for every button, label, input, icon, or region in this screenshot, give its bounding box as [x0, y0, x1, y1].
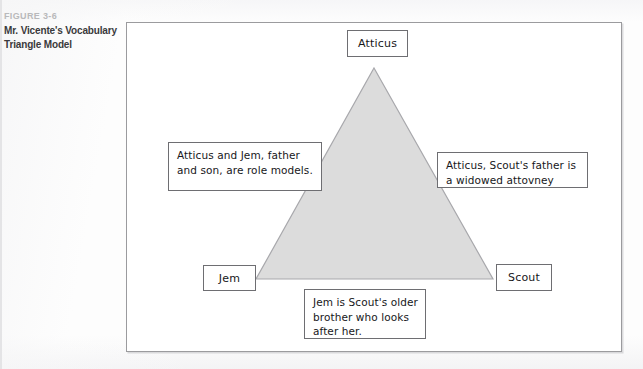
node-label-jem: Jem: [219, 272, 240, 285]
figure-frame: Atticus Jem Scout Atticus and Jem, fathe…: [126, 22, 622, 352]
node-label-atticus: Atticus: [358, 37, 397, 50]
note-box-right[interactable]: Atticus, Scout's father is a widowed att…: [437, 152, 588, 188]
node-box-jem[interactable]: Jem: [203, 265, 256, 291]
node-label-scout: Scout: [508, 271, 540, 284]
node-box-scout[interactable]: Scout: [496, 264, 552, 291]
figure-caption: FIGURE 3-6 Mr. Vicente's Vocabulary Tria…: [4, 10, 122, 51]
figure-page: FIGURE 3-6 Mr. Vicente's Vocabulary Tria…: [0, 0, 643, 369]
node-box-atticus[interactable]: Atticus: [347, 30, 408, 57]
figure-title-label: Mr. Vicente's Vocabulary Triangle Model: [4, 24, 122, 51]
note-box-left[interactable]: Atticus and Jem, father and son, are rol…: [168, 142, 322, 191]
note-box-bottom[interactable]: Jem is Scout's older brother who looks a…: [304, 289, 426, 339]
page-spine-line: [0, 0, 2, 369]
figure-number-label: FIGURE 3-6: [4, 10, 122, 22]
